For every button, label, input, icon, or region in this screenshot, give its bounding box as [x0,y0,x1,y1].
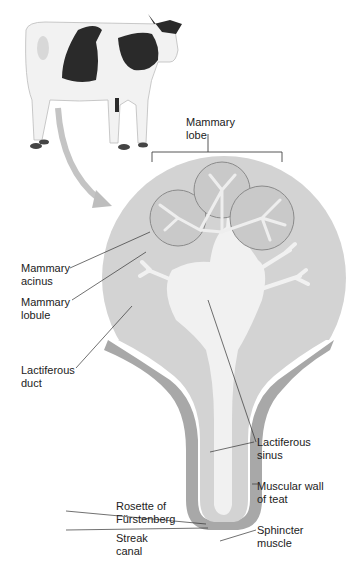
label-sphincter: Sphincter muscle [257,524,303,550]
label-mammary-acinus: Mammary acinus [21,262,70,288]
cow-illustration [26,14,182,150]
label-lactiferous-sinus: Lactiferous sinus [257,436,311,462]
label-streak-canal: Streak canal [116,532,148,558]
label-mammary-lobule: Mammary lobule [21,296,70,322]
arrow-icon [58,108,100,200]
label-lactiferous-duct: Lactiferous duct [21,364,75,390]
label-muscular-wall: Muscular wall of teat [257,480,324,506]
label-rosette: Rosette of Fürstenberg [116,500,175,526]
label-mammary-lobe: Mammary lobe [186,116,235,142]
